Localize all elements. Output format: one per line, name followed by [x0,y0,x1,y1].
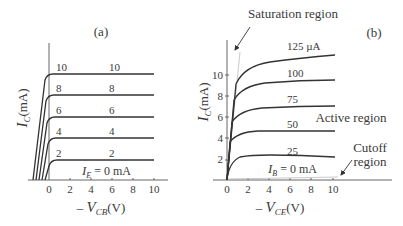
tick-label: 10 [212,69,224,81]
active-region-label: Active region [315,110,387,125]
saturation-region-label: Saturation region [248,6,338,21]
tick-label: 2 [67,183,73,195]
panel-a-y-label: IC(mA) [14,88,32,128]
tick-label: 0 [46,183,52,195]
curve-label: 25 [287,145,299,157]
tick-label: 4 [218,132,224,144]
panel-a-curve-labels: 10 8 6 4 2 10 8 6 4 2 [56,61,121,159]
tick-label: 6 [109,183,115,195]
curve-label: 10 [56,61,68,73]
tick-label: 8 [218,90,224,102]
panel-b-zero-label: IB = 0 mA [267,161,317,178]
curve-label: 125 µA [287,40,321,52]
cutoff-boundary [227,177,338,179]
panel-a-x-tick-labels: 0 2 4 6 8 10 [46,183,160,195]
curve-label: 10 [109,61,121,73]
curve-label: 8 [109,82,115,94]
tick-label: 0 [224,183,230,195]
panel-b-title: (b) [366,25,381,40]
tick-label: 8 [130,183,136,195]
curve-label: 50 [287,118,299,130]
cutoff-region-label-line2: region [353,154,387,169]
tick-label: 8 [308,183,314,195]
panel-b-x-tick-labels: 0 2 4 6 8 10 [224,183,339,195]
tick-label: 10 [328,183,340,195]
tick-label: 4 [266,183,272,195]
panel-b-y-label: IC(mA) [195,82,213,122]
curve-label: 100 [287,67,304,79]
curve-label: 2 [109,147,115,159]
tick-label: 2 [218,153,224,165]
curve-label: 4 [109,125,115,137]
tick-label: 6 [218,111,224,123]
curve-label: 6 [56,104,62,116]
tick-label: 6 [287,183,293,195]
panel-a-title: (a) [94,24,108,39]
curve-label: 6 [109,104,115,116]
panel-a: (a) 0 2 4 6 8 10 10 [14,24,168,217]
panel-b-x-label: – VCE(V) [255,199,304,217]
curve-label: 8 [56,82,62,94]
cutoff-region-label-line1: Cutoff [353,140,387,155]
curve-label: 75 [287,93,299,105]
cutoff-arrow-icon [341,160,352,175]
curve-label: 2 [56,147,62,159]
curve-label: 4 [56,125,62,137]
panel-a-zero-label: IE = 0 mA [81,163,131,180]
tick-label: 4 [88,183,94,195]
panel-b: (b) 2 4 6 8 10 0 2 [195,6,392,217]
figure: (a) 0 2 4 6 8 10 10 [0,0,403,226]
panel-b-y-tick-labels: 2 4 6 8 10 [212,69,224,165]
tick-label: 2 [245,183,251,195]
panel-a-x-label: – VCB(V) [76,199,125,217]
saturation-arrow-icon [235,27,250,50]
tick-label: 10 [149,183,161,195]
